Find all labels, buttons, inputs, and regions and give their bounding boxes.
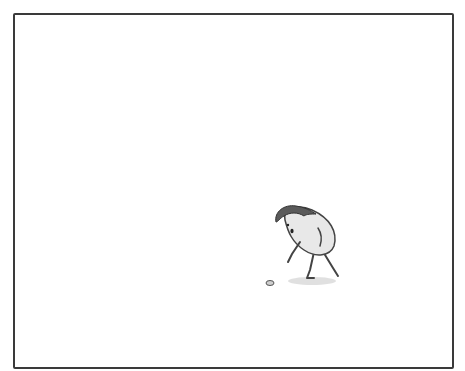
coin-object — [266, 281, 274, 286]
character-mouth — [290, 229, 293, 233]
character-eye — [287, 224, 289, 226]
comic-illustration — [0, 0, 465, 371]
character-arm — [288, 242, 300, 262]
character-front-leg — [307, 252, 314, 278]
